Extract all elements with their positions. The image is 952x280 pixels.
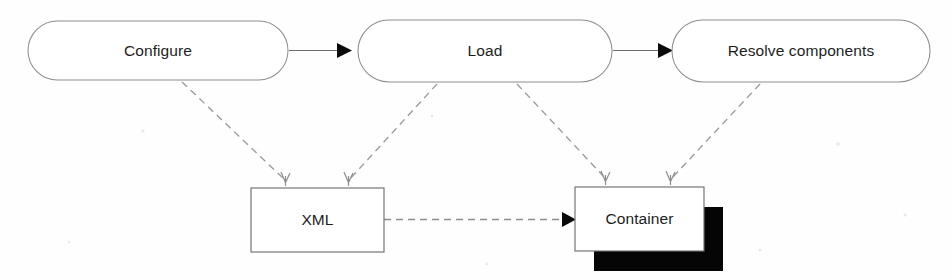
dependency-arrow-resolve-to-container [666, 84, 760, 185]
dependency-arrow-xml-to-container [384, 212, 576, 227]
flow-arrow-load-to-resolve [613, 43, 673, 58]
stage-label-configure: Configure [124, 42, 192, 59]
flow-arrow-configure-to-load [289, 43, 352, 58]
diagram-canvas: Configure Load Resolve components XML Co… [0, 0, 952, 280]
store-node-xml[interactable]: XML [251, 188, 384, 252]
stage-label-resolve-components: Resolve components [728, 42, 875, 59]
store-node-container[interactable]: Container [575, 187, 723, 271]
dependency-arrow-load-to-container [517, 84, 610, 185]
stage-node-load[interactable]: Load [358, 20, 612, 82]
diagram-svg: Configure Load Resolve components XML Co… [0, 0, 952, 280]
scan-noise [68, 60, 907, 266]
stage-node-resolve-components[interactable]: Resolve components [672, 20, 930, 82]
stage-node-configure[interactable]: Configure [28, 21, 288, 80]
store-label-xml: XML [301, 211, 333, 228]
store-label-container: Container [605, 210, 673, 227]
dependency-arrow-load-to-xml [344, 84, 437, 186]
dependency-arrow-configure-to-xml [182, 82, 290, 186]
stage-label-load: Load [468, 42, 503, 59]
